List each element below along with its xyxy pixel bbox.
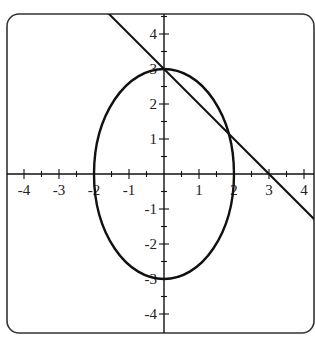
x-tick-label: -3 [53,182,66,198]
x-tick-label: 4 [300,182,308,198]
x-tick-label: -4 [18,182,31,198]
y-tick-label: 2 [150,96,158,112]
y-tick-label: -4 [145,306,158,322]
chart: -4-3-2-112344321-1-2-3-4 [0,0,315,337]
y-tick-label: -1 [145,201,158,217]
x-tick-label: 3 [265,182,273,198]
x-tick-label: -1 [123,182,136,198]
y-tick-label: 1 [150,131,158,147]
y-tick-label: 4 [150,26,158,42]
x-tick-label: 1 [195,182,203,198]
y-tick-label: -2 [145,236,158,252]
